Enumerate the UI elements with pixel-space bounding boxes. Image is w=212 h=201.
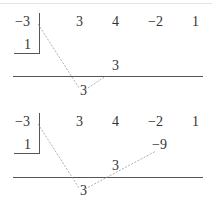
arrow-divisor-to-result [38, 24, 79, 88]
synthetic-division-step-1: −3 1 3 4 −2 1 3 3 [0, 0, 212, 100]
arrow-result-to-product [85, 76, 106, 90]
synthetic-division-step-2: −3 1 3 4 −2 1 −9 3 3 [0, 100, 212, 200]
arrow-result-to-product [85, 151, 156, 189]
arrow-divisor-to-result [38, 124, 79, 188]
dashed-arrows [0, 0, 212, 100]
dashed-arrows [0, 100, 212, 200]
